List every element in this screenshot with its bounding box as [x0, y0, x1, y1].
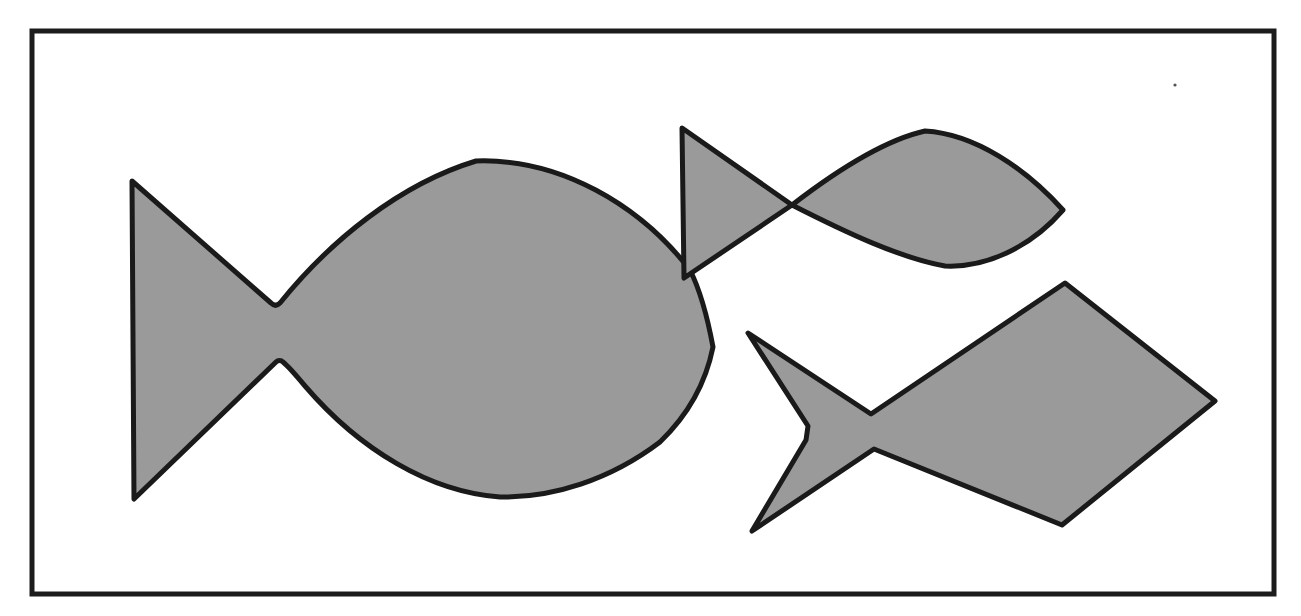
- scan-speck-artifact: [1173, 83, 1176, 86]
- fish-figure-canvas: [0, 0, 1301, 616]
- figure-root: Line-art illustration of three stylized …: [0, 0, 1301, 616]
